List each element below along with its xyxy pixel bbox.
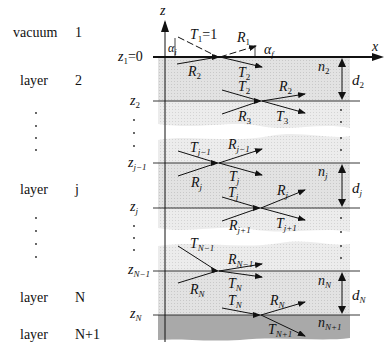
wave-label-TN-in: TN: [228, 294, 242, 310]
wave-label-Tj+1: Tj+1: [276, 217, 297, 233]
wave-label-R1: R1: [237, 31, 250, 47]
interface-label-zN-1: zN−1: [128, 263, 150, 279]
medium-name-N1: layer: [20, 328, 48, 342]
interface-label-zj-1: zj−1: [128, 156, 147, 172]
wave-label-R2-top: R2: [188, 65, 201, 81]
index-label-n2: n2: [318, 60, 330, 76]
layer-jp1-region: [158, 208, 350, 232]
wave-label-Rj-1: Rj−1: [228, 138, 250, 154]
layer-jm1-region: [158, 134, 350, 163]
wave-label-Tj-trans: Tj: [229, 170, 239, 186]
wave-label-Rj-up: Rj: [191, 176, 202, 192]
thickness-label-d2: d2: [352, 73, 364, 90]
x-axis-label: x: [372, 40, 378, 54]
z-axis-label: z: [160, 4, 165, 18]
medium-name-N: layer: [20, 291, 48, 305]
index-label-nN+1: nN+1: [318, 316, 342, 332]
multilayer-diagram: z x vacuum 1 layer 2 layer j layer N lay…: [0, 0, 390, 355]
wave-label-TN-trans: TN: [228, 277, 242, 293]
wave-label-RN-up: RN: [190, 283, 205, 299]
wave-label-R2-z2: R2: [279, 80, 292, 96]
wave-label-RN-1: RN−1: [228, 253, 253, 269]
medium-index-2: 2: [75, 74, 82, 88]
medium-index-N: N: [75, 291, 85, 305]
left-z-vdots: [133, 119, 135, 251]
wave-label-Tj-1: Tj−1: [190, 141, 211, 157]
index-label-nj: nj: [318, 165, 328, 181]
z-axis-arrowhead: [161, 20, 169, 32]
wave-label-TN-1: TN−1: [190, 237, 214, 253]
wave-label-R3: R3: [238, 110, 251, 126]
medium-name-1: vacuum: [13, 26, 57, 40]
angle-label-alpha-i: αi: [168, 42, 177, 57]
wave-label-T2-z2: T2: [238, 80, 250, 96]
wave-label-Rj-out: Rj: [277, 184, 288, 200]
thickness-label-dN: dN: [352, 288, 366, 305]
medium-name-j: layer: [20, 183, 48, 197]
medium-index-j: j: [75, 183, 79, 197]
angle-label-alpha-f: αf: [264, 43, 274, 59]
interface-label-zj: zj: [130, 200, 138, 216]
interface-label-z1: z1=0: [118, 50, 143, 66]
layer-nm1-region: [158, 241, 350, 271]
medium-index-1: 1: [75, 26, 82, 40]
medium-name-2: layer: [20, 74, 48, 88]
wave-label-TN+1: TN+1: [268, 323, 292, 339]
thickness-label-dj: dj: [352, 181, 362, 198]
wave-label-T3: T3: [276, 110, 288, 126]
interface-label-zN: zN: [130, 307, 141, 323]
index-label-nN: nN: [318, 274, 331, 290]
wave-label-RN-out: RN: [270, 294, 285, 310]
wave-label-Rj+1: Rj+1: [229, 219, 251, 235]
medium-index-N1: N+1: [75, 328, 100, 342]
interface-label-z2: z2: [130, 94, 140, 110]
wave-label-Tj-in: Tj: [228, 186, 238, 202]
x-axis-arrowhead: [372, 53, 384, 61]
layer-3-region: [158, 101, 350, 128]
wave-label-T1: T1=1: [190, 28, 217, 44]
